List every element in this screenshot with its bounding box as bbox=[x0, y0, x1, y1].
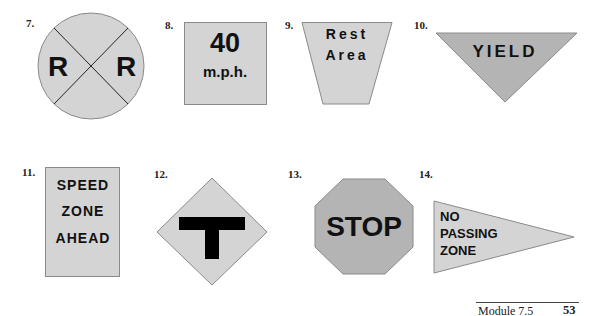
sign-13-text: STOP bbox=[326, 211, 402, 242]
rest-area-sign: Rest Area bbox=[301, 22, 393, 106]
t-intersection-sign bbox=[155, 177, 269, 287]
sign-14-text-line1: NO bbox=[440, 209, 460, 224]
sign-8-text-number: 40 bbox=[210, 28, 240, 58]
sign-14-text-line2: PASSING bbox=[440, 226, 498, 241]
sign-7-text-left: R bbox=[48, 51, 68, 82]
sign-10-number: 10. bbox=[414, 19, 428, 31]
sign-11-number: 11. bbox=[22, 166, 35, 178]
sign-8-number: 8. bbox=[165, 19, 173, 31]
sign-11-text-line1: SPEED bbox=[57, 177, 109, 193]
footer-module-label: Module 7.5 bbox=[478, 304, 533, 316]
sign-13-number: 13. bbox=[288, 168, 302, 180]
sign-7-number: 7. bbox=[26, 17, 34, 29]
sign-7-text-right: R bbox=[116, 51, 136, 82]
sign-10-text: YIELD bbox=[472, 42, 537, 61]
speed-limit-sign: 40 m.p.h. bbox=[184, 22, 268, 106]
page-number: 53 bbox=[563, 303, 576, 316]
sign-11-text-line3: AHEAD bbox=[56, 230, 111, 246]
sign-9-text-line1: Rest bbox=[326, 26, 368, 42]
sign-9-text-line2: Area bbox=[325, 47, 368, 63]
stop-sign: STOP bbox=[314, 178, 414, 275]
sign-8-text-unit: m.p.h. bbox=[203, 63, 247, 80]
speed-zone-ahead-sign: SPEED ZONE AHEAD bbox=[45, 167, 121, 278]
sign-14-number: 14. bbox=[419, 168, 433, 180]
sign-11-text-line2: ZONE bbox=[62, 203, 105, 219]
no-passing-zone-sign: NO PASSING ZONE bbox=[433, 200, 576, 275]
sign-14-text-line3: ZONE bbox=[440, 243, 476, 258]
yield-sign: YIELD bbox=[435, 32, 579, 104]
sign-9-number: 9. bbox=[285, 19, 293, 31]
railroad-crossing-sign: R R bbox=[36, 11, 146, 121]
